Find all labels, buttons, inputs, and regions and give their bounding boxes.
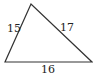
side-label-left: 15: [7, 22, 21, 35]
side-label-right: 17: [60, 21, 74, 34]
triangle-diagram: 15 17 16: [0, 0, 93, 75]
side-label-bottom: 16: [41, 63, 55, 75]
